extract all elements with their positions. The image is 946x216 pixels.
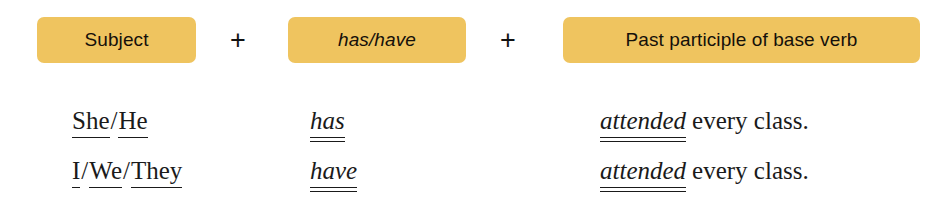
- examples-list: She/He has attendedevery class. I/We/The…: [0, 104, 946, 204]
- example-auxiliary: have: [310, 154, 357, 188]
- formula-box-subject-label: Subject: [84, 29, 148, 51]
- subject-word: She: [72, 107, 110, 138]
- formula-row: Subject + has/have + Past participle of …: [0, 17, 946, 63]
- predicate-tail: every class.: [686, 107, 809, 134]
- formula-box-participle-label: Past participle of base verb: [626, 29, 858, 51]
- example-subject: I/We/They: [72, 154, 182, 188]
- formula-box-participle: Past participle of base verb: [563, 17, 920, 63]
- plus-operator-2: +: [495, 17, 521, 63]
- example-predicate: attendedevery class.: [600, 154, 809, 188]
- participle-verb: attended: [600, 157, 686, 188]
- example-predicate: attendedevery class.: [600, 104, 809, 138]
- subject-word: He: [118, 107, 147, 138]
- formula-box-subject: Subject: [37, 17, 196, 63]
- example-row: I/We/They have attendedevery class.: [0, 154, 946, 204]
- auxiliary-verb: has: [310, 107, 345, 138]
- predicate-tail: every class.: [686, 157, 809, 184]
- plus-operator-1: +: [225, 17, 251, 63]
- participle-verb: attended: [600, 107, 686, 138]
- example-auxiliary: has: [310, 104, 345, 138]
- example-subject: She/He: [72, 104, 148, 138]
- auxiliary-verb: have: [310, 157, 357, 188]
- subject-word: We: [89, 157, 122, 188]
- formula-box-auxiliary-label: has/have: [338, 29, 416, 51]
- example-row: She/He has attendedevery class.: [0, 104, 946, 154]
- subject-separator: /: [80, 157, 89, 184]
- formula-box-auxiliary: has/have: [288, 17, 466, 63]
- subject-word: They: [131, 157, 182, 188]
- subject-separator: /: [122, 157, 131, 184]
